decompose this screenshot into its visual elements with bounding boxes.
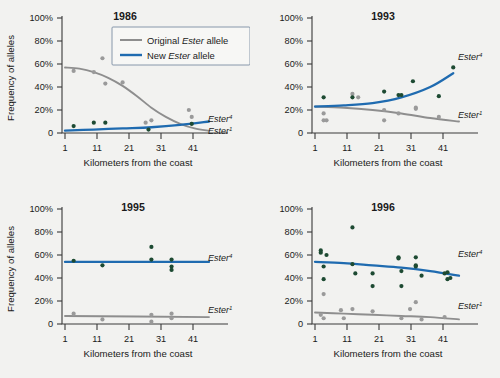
data-point [319, 313, 323, 317]
svg-text:Ester1: Ester1 [458, 301, 482, 312]
data-point [445, 270, 449, 274]
y-axis-ticks: 100% 80% 60% 40% 20% 0 [280, 204, 313, 329]
x-tick-label: 21 [124, 334, 134, 344]
data-point [144, 121, 148, 125]
x-tick-label: 41 [438, 143, 448, 153]
series-label-sup: 4 [479, 249, 483, 255]
data-point [451, 65, 455, 69]
data-point [399, 316, 403, 320]
x-tick-label: 1 [62, 334, 67, 344]
data-point [353, 271, 357, 275]
data-point [322, 316, 326, 320]
y-tick-label: 100% [30, 13, 54, 23]
y-tick-label: 0 [48, 128, 53, 138]
data-point [72, 124, 76, 128]
data-point [121, 80, 125, 84]
points-original-allele [72, 312, 174, 324]
data-point [414, 255, 418, 259]
x-axis-ticks: 1 11 21 31 41 [62, 133, 198, 153]
data-point [149, 245, 153, 249]
series-gray-1995 [65, 312, 209, 324]
data-point [149, 118, 153, 122]
svg-text:Ester4: Ester4 [458, 52, 483, 63]
series-gray-1996 [315, 292, 459, 322]
x-axis-title: Kilometers from the coast [334, 157, 443, 168]
y-tick-label: 20% [285, 296, 303, 306]
x-tick-label: 1 [312, 334, 317, 344]
y-tick-label: 80% [35, 227, 53, 237]
series-label-new-allele: Ester4 [458, 52, 483, 63]
y-tick-label: 100% [280, 13, 304, 23]
series-label-new-allele: Ester4 [208, 253, 233, 264]
series-label-sup: 4 [229, 253, 233, 259]
x-tick-label: 1 [312, 143, 317, 153]
x-tick-label: 11 [342, 334, 352, 344]
data-point [324, 118, 328, 122]
x-axis-title: Kilometers from the coast [84, 157, 193, 168]
y-axis-title: Frequency of alleles [5, 35, 16, 121]
data-point [92, 70, 96, 74]
data-point [408, 307, 412, 311]
data-point [149, 258, 153, 262]
data-point [396, 111, 400, 115]
series-label-original-allele: Ester1 [208, 305, 232, 316]
y-axis-ticks: 100% 80% 60% 40% 20% 0 [280, 13, 313, 138]
series-label-original-allele: Ester1 [208, 126, 232, 137]
points-new-allele [72, 245, 174, 272]
y-tick-label: 0 [48, 319, 53, 329]
y-axis-ticks: 100% 80% 60% 40% 20% 0 [30, 13, 63, 138]
data-point [399, 284, 403, 288]
data-point [322, 277, 326, 281]
data-point [342, 316, 346, 320]
panel-1996: 1996 100% 80% 60% 40% 20% 0 [250, 189, 500, 378]
chart-1995: 1995 Frequency of alleles 100% 80% 60% 4… [0, 189, 250, 378]
series-label-sup: 1 [479, 301, 482, 307]
x-tick-label: 11 [342, 143, 352, 153]
series-blue-1995 [65, 245, 209, 272]
series-label-original-allele: Ester1 [458, 301, 482, 312]
data-point [169, 268, 173, 272]
y-tick-label: 20% [35, 296, 53, 306]
data-point [169, 312, 173, 316]
fit-curve-original-allele [315, 107, 459, 122]
y-tick-label: 60% [285, 59, 303, 69]
y-tick-label: 80% [285, 36, 303, 46]
y-tick-label: 20% [285, 105, 303, 115]
svg-text:Ester1: Ester1 [208, 305, 232, 316]
series-label-base: Ester [458, 110, 480, 120]
y-tick-label: 100% [280, 204, 304, 214]
series-label-base: Ester [458, 301, 480, 311]
data-point [350, 95, 354, 99]
data-point [100, 56, 104, 60]
series-label-sup: 4 [479, 52, 483, 58]
x-axis-ticks: 1 11 21 31 41 [312, 324, 448, 344]
y-axis-title: Frequency of alleles [5, 226, 16, 312]
series-label-base: Ester [208, 126, 230, 136]
data-point [72, 259, 76, 263]
data-point [103, 121, 107, 125]
data-point [92, 121, 96, 125]
y-tick-label: 0 [298, 128, 303, 138]
x-tick-label: 31 [156, 334, 166, 344]
data-point [414, 107, 418, 111]
data-point [149, 320, 153, 324]
data-point [100, 263, 104, 267]
panel-title: 1995 [121, 201, 145, 213]
fit-curve-original-allele [65, 316, 209, 317]
series-label-sup: 1 [479, 110, 482, 116]
data-point [443, 315, 447, 319]
points-new-allele [319, 225, 453, 288]
data-point [396, 256, 400, 260]
svg-text:Ester1: Ester1 [458, 110, 482, 121]
series-label-base: Ester [208, 114, 230, 124]
y-tick-label: 60% [285, 250, 303, 260]
x-tick-label: 41 [188, 143, 198, 153]
data-point [103, 81, 107, 85]
figure-grid: 1986 Frequency of alleles 100% 80% 60% 4… [0, 0, 500, 378]
data-point [419, 274, 423, 278]
x-tick-label: 41 [438, 334, 448, 344]
legend: Original Ester allele New Ester allele [112, 27, 250, 65]
chart-1996: 1996 100% 80% 60% 40% 20% 0 [250, 189, 500, 378]
y-tick-label: 60% [35, 59, 53, 69]
data-point [322, 264, 326, 268]
